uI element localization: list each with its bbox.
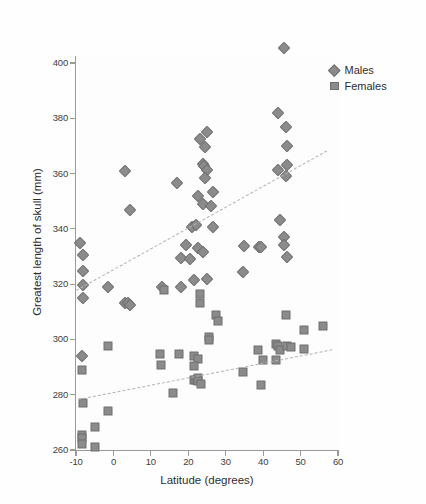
data-point-females <box>300 325 309 334</box>
y-tick-label: 380 <box>38 112 68 123</box>
data-point-females <box>77 439 86 448</box>
data-point-females <box>257 381 266 390</box>
data-point-females <box>189 361 198 370</box>
data-point-females <box>319 321 328 330</box>
y-tick <box>70 284 75 285</box>
x-axis-title: Latitude (degrees) <box>76 474 338 486</box>
y-axis-line <box>75 56 76 451</box>
y-tick <box>70 118 75 119</box>
data-point-females <box>195 298 204 307</box>
x-tick-label: 0 <box>98 456 128 467</box>
data-point-females <box>281 310 290 319</box>
scatter-plot-figure: 260280300320340360380400 -10010203040506… <box>0 0 426 504</box>
x-tick-label: -10 <box>61 456 91 467</box>
data-point-females <box>204 335 213 344</box>
x-tick-label: 10 <box>136 456 166 467</box>
square-icon <box>330 82 339 91</box>
data-point-males <box>277 41 290 54</box>
x-tick-label: 30 <box>211 456 241 467</box>
y-tick <box>70 228 75 229</box>
y-tick-label: 260 <box>38 444 68 455</box>
data-point-females <box>253 346 262 355</box>
x-tick-label: 40 <box>248 456 278 467</box>
data-point-females <box>156 349 165 358</box>
legend-item-males: Males <box>330 62 387 78</box>
y-tick-label: 400 <box>38 57 68 68</box>
data-point-females <box>90 423 99 432</box>
data-point-females <box>238 367 247 376</box>
x-tick-label: 60 <box>323 456 353 467</box>
diamond-icon <box>328 64 340 76</box>
data-point-females <box>195 289 204 298</box>
y-tick <box>70 339 75 340</box>
data-point-females <box>214 316 223 325</box>
x-tick-label: 20 <box>173 456 203 467</box>
data-point-females <box>157 360 166 369</box>
data-point-females <box>159 286 168 295</box>
y-tick-label: 280 <box>38 389 68 400</box>
legend: Males Females <box>330 62 387 94</box>
data-point-females <box>103 407 112 416</box>
x-tick-label: 50 <box>286 456 316 467</box>
data-point-females <box>77 366 86 375</box>
y-tick <box>70 394 75 395</box>
data-point-females <box>103 341 112 350</box>
data-point-females <box>287 342 296 351</box>
legend-label-males: Males <box>345 64 374 76</box>
y-tick <box>70 62 75 63</box>
y-axis-title: Greatest length of skull (mm) <box>31 132 43 352</box>
y-tick <box>70 173 75 174</box>
data-point-females <box>90 443 99 452</box>
data-point-females <box>197 380 206 389</box>
data-point-females <box>300 345 309 354</box>
data-point-females <box>174 349 183 358</box>
data-point-females <box>79 399 88 408</box>
legend-label-females: Females <box>345 80 387 92</box>
legend-item-females: Females <box>330 78 387 94</box>
y-tick <box>70 449 75 450</box>
data-point-females <box>169 388 178 397</box>
